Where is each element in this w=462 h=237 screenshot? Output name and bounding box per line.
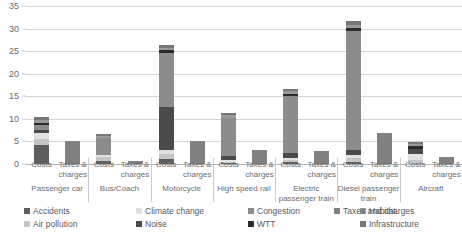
legend-swatch-icon bbox=[248, 221, 254, 227]
x-axis-group-label: Passenger car bbox=[26, 184, 88, 194]
x-axis-sublabel: Taxes & charges bbox=[244, 160, 275, 179]
legend-item[interactable]: Climate change bbox=[136, 206, 204, 216]
y-axis-tick-label: 35 bbox=[9, 2, 19, 11]
bar-costs[interactable] bbox=[34, 117, 49, 164]
legend-swatch-icon bbox=[136, 221, 142, 227]
legend-item[interactable]: Taxes and charges bbox=[334, 206, 414, 216]
x-axis-group-label: Bus/Coach bbox=[88, 184, 150, 194]
category-separator bbox=[151, 158, 152, 202]
y-axis-tick-label: 20 bbox=[9, 69, 19, 78]
x-axis-sublabel: Costs bbox=[26, 160, 57, 170]
y-axis-tick-label: 0 bbox=[14, 160, 19, 169]
legend-item[interactable]: Noise bbox=[136, 219, 167, 229]
x-axis-sublabel: Taxes & charges bbox=[119, 160, 150, 179]
x-axis-sublabel: Costs bbox=[151, 160, 182, 170]
x-axis-group-label: High speed rail bbox=[213, 184, 275, 194]
x-axis-sublabel: Costs bbox=[213, 160, 244, 170]
x-axis-sublabel: Costs bbox=[400, 160, 431, 170]
x-axis-sublabel: Costs bbox=[275, 160, 306, 170]
category-separator bbox=[400, 158, 401, 202]
legend-label: Congestion bbox=[257, 206, 300, 216]
plot-area: 05101520253035 bbox=[0, 0, 462, 170]
bar-segment bbox=[283, 96, 298, 153]
legend-swatch-icon bbox=[136, 208, 142, 214]
y-axis-tick-label: 30 bbox=[9, 24, 19, 33]
y-axis-tick-label: 5 bbox=[14, 137, 19, 146]
legend-label: Air pollution bbox=[33, 219, 77, 229]
bar-segment bbox=[159, 53, 174, 107]
bar-segment bbox=[159, 107, 174, 150]
x-axis-sublabel: Taxes & charges bbox=[369, 160, 400, 179]
legend-swatch-icon bbox=[360, 221, 366, 227]
legend-item[interactable]: Infrastructure bbox=[360, 219, 419, 229]
x-axis-sublabel: Taxes & charges bbox=[57, 160, 88, 179]
legend-label: WTT bbox=[257, 219, 275, 229]
x-axis-sublabel: Taxes & charges bbox=[306, 160, 337, 179]
x-axis-sublabel: Taxes & charges bbox=[431, 160, 462, 179]
legend-swatch-icon bbox=[24, 221, 30, 227]
x-axis-sublabel: Costs bbox=[337, 160, 368, 170]
category-axis: CostsTaxes & chargesCostsTaxes & charges… bbox=[26, 158, 462, 204]
legend-label: Climate change bbox=[145, 206, 204, 216]
legend-item[interactable]: Accidents bbox=[24, 206, 70, 216]
bar-segment bbox=[96, 138, 111, 154]
x-axis-group-label: Motorcycle bbox=[151, 184, 213, 194]
legend-label: Taxes and charges bbox=[343, 206, 414, 216]
legend-label: Accidents bbox=[33, 206, 70, 216]
bar-segment bbox=[346, 31, 361, 150]
x-axis-sublabel: Costs bbox=[88, 160, 119, 170]
chart-legend: AccidentsClimate changeCongestionHabitat… bbox=[24, 206, 462, 234]
legend-swatch-icon bbox=[248, 208, 254, 214]
legend-item[interactable]: WTT bbox=[248, 219, 275, 229]
category-separator bbox=[213, 158, 214, 202]
x-axis-group-label: Electric passenger train bbox=[275, 184, 337, 203]
x-axis-group-label: Aircraft bbox=[400, 184, 462, 194]
legend-label: Infrastructure bbox=[369, 219, 419, 229]
bar-costs[interactable] bbox=[159, 45, 174, 164]
x-axis-sublabel: Taxes & charges bbox=[182, 160, 213, 179]
y-axis-tick-label: 15 bbox=[9, 92, 19, 101]
bar-costs[interactable] bbox=[221, 113, 236, 164]
y-axis-tick-label: 10 bbox=[9, 114, 19, 123]
legend-swatch-icon bbox=[24, 208, 30, 214]
bars-layer bbox=[26, 0, 462, 170]
y-axis-tick-label: 25 bbox=[9, 47, 19, 56]
bar-costs[interactable] bbox=[346, 21, 361, 164]
y-axis: 05101520253035 bbox=[0, 0, 22, 170]
legend-item[interactable]: Congestion bbox=[248, 206, 300, 216]
bar-segment bbox=[221, 118, 236, 157]
legend-swatch-icon bbox=[334, 208, 340, 214]
stacked-bar-chart: 05101520253035 CostsTaxes & chargesCosts… bbox=[0, 0, 462, 237]
bar-costs[interactable] bbox=[283, 89, 298, 164]
legend-label: Noise bbox=[145, 219, 167, 229]
x-axis-group-label: Diesel passenger train bbox=[337, 184, 399, 203]
legend-item[interactable]: Air pollution bbox=[24, 219, 77, 229]
category-separator bbox=[88, 158, 89, 202]
